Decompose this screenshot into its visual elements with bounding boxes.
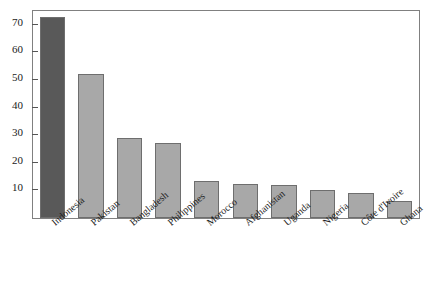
y-tick-label: 50 [12,72,23,83]
y-axis: 10203040506070 [0,0,32,281]
bar-group [117,11,142,218]
y-tick-label: 30 [12,127,23,138]
x-axis: IndonesiaPakistanBangladeshPhilippinesMo… [33,220,419,281]
bar[interactable] [40,17,65,218]
y-tick-label: 10 [12,182,23,193]
bar-group [78,11,103,218]
bar-group [40,11,65,218]
bar-group [194,11,219,218]
bars-layer [33,11,419,218]
bar-group [155,11,180,218]
y-tick-label: 20 [12,155,23,166]
bar-group [233,11,258,218]
y-tick-label: 40 [12,100,23,111]
bar-group [310,11,335,218]
bar-group [271,11,296,218]
bar-chart-figure: 10203040506070 IndonesiaPakistanBanglade… [0,0,432,281]
bar-group [348,11,373,218]
y-tick-label: 60 [12,44,23,55]
y-tick-label: 70 [12,17,23,28]
